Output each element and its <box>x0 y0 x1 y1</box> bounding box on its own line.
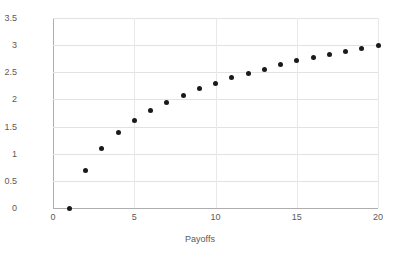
y-tick-label: 1.5 <box>4 122 17 132</box>
data-point <box>359 46 364 51</box>
y-tick-label: 2 <box>12 94 17 104</box>
scatter-chart: Utility Payoffs 00.511.522.533.505101520 <box>0 0 400 257</box>
y-tick-label: 3.5 <box>4 13 17 23</box>
data-point <box>294 58 299 63</box>
y-gridline <box>53 208 378 209</box>
data-point <box>164 100 169 105</box>
data-point <box>311 55 316 60</box>
data-point <box>262 67 267 72</box>
x-tick-label: 20 <box>373 212 383 222</box>
data-point <box>197 86 202 91</box>
data-point <box>181 93 186 98</box>
y-tick-label: 0 <box>12 203 17 213</box>
y-tick-label: 2.5 <box>4 67 17 77</box>
data-point <box>213 81 218 86</box>
x-gridline <box>297 18 298 208</box>
x-tick-label: 10 <box>210 212 220 222</box>
y-tick-label: 3 <box>12 40 17 50</box>
data-point <box>343 49 348 54</box>
data-point <box>83 168 88 173</box>
data-point <box>67 206 72 211</box>
y-tick-label: 1 <box>12 149 17 159</box>
x-gridline <box>216 18 217 208</box>
data-point <box>116 130 121 135</box>
data-point <box>132 118 137 123</box>
data-point <box>99 146 104 151</box>
data-point <box>327 52 332 57</box>
plot-area <box>53 18 378 208</box>
x-tick-label: 5 <box>132 212 137 222</box>
data-point <box>278 62 283 67</box>
y-tick-label: 0.5 <box>4 176 17 186</box>
x-tick-label: 15 <box>292 212 302 222</box>
data-point <box>229 75 234 80</box>
x-tick-label: 0 <box>50 212 55 222</box>
x-gridline <box>134 18 135 208</box>
data-point <box>376 43 381 48</box>
x-axis-title: Payoffs <box>0 234 400 244</box>
data-point <box>148 108 153 113</box>
data-point <box>246 71 251 76</box>
